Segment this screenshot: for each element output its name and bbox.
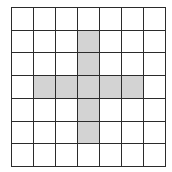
- grid-cell: [12, 53, 34, 76]
- grid-cell: [144, 144, 166, 167]
- grid-cell: [34, 53, 56, 76]
- grid-cell: [122, 99, 144, 122]
- grid-cell: [56, 8, 78, 31]
- shaded-cell: [78, 76, 100, 99]
- grid-cell: [56, 53, 78, 76]
- grid-cell: [34, 144, 56, 167]
- grid-cell: [12, 76, 34, 99]
- cross-grid-diagram: [11, 7, 166, 167]
- shaded-cell: [100, 76, 122, 99]
- shaded-cell: [78, 53, 100, 76]
- grid-cell: [122, 31, 144, 54]
- grid-cell: [12, 144, 34, 167]
- grid-cell: [56, 122, 78, 145]
- grid-cell: [12, 8, 34, 31]
- grid-cell: [122, 8, 144, 31]
- grid-cell: [122, 144, 144, 167]
- grid-cell: [56, 31, 78, 54]
- grid-cell: [144, 99, 166, 122]
- grid-cell: [78, 144, 100, 167]
- grid-cell: [100, 144, 122, 167]
- grid-cell: [34, 8, 56, 31]
- grid-cell: [100, 99, 122, 122]
- shaded-cell: [78, 122, 100, 145]
- shaded-cell: [122, 76, 144, 99]
- grid-cell: [56, 99, 78, 122]
- grid-cell: [144, 53, 166, 76]
- grid-cell: [56, 144, 78, 167]
- grid-cell: [144, 76, 166, 99]
- grid-cell: [122, 122, 144, 145]
- grid-cell: [144, 31, 166, 54]
- grid-cell: [100, 53, 122, 76]
- shaded-cell: [78, 99, 100, 122]
- grid-cell: [144, 8, 166, 31]
- grid-cell: [12, 122, 34, 145]
- grid-cell: [100, 8, 122, 31]
- grid-cell: [100, 31, 122, 54]
- shaded-cell: [78, 31, 100, 54]
- shaded-cell: [56, 76, 78, 99]
- shaded-cell: [34, 76, 56, 99]
- grid-cell: [34, 122, 56, 145]
- grid-cell: [34, 99, 56, 122]
- grid-cell: [122, 53, 144, 76]
- grid-cell: [78, 8, 100, 31]
- grid-cell: [100, 122, 122, 145]
- grid-cell: [144, 122, 166, 145]
- grid-cell: [12, 31, 34, 54]
- grid-cell: [12, 99, 34, 122]
- grid-cell: [34, 31, 56, 54]
